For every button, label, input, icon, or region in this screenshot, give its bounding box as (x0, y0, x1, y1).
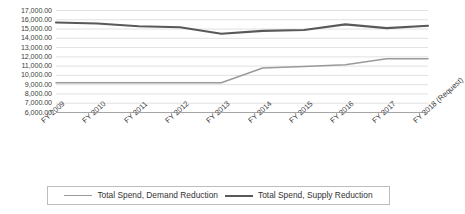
legend-item-supply-reduction: Total Spend, Supply Reduction (225, 191, 373, 200)
x-axis-tick-label: FY 2010 (81, 99, 108, 124)
x-axis-tick-label: FY 2014 (247, 99, 274, 124)
x-axis-tick-label: FY 2013 (205, 99, 232, 124)
x-axis-tick-label: FY 2017 (371, 99, 398, 124)
x-axis-tick-label: FY 2015 (288, 99, 315, 124)
legend-line-icon-demand (64, 195, 92, 196)
legend-line-icon-supply (225, 195, 253, 197)
legend-item-demand-reduction: Total Spend, Demand Reduction (64, 191, 218, 200)
legend-label-demand: Total Spend, Demand Reduction (97, 191, 218, 200)
x-axis: FY 2009FY 2010FY 2011FY 2012FY 2013FY 20… (0, 0, 434, 170)
x-axis-tick-label: FY 2011 (123, 100, 149, 125)
x-axis-tick-label: FY 2009 (40, 99, 67, 124)
legend-label-supply: Total Spend, Supply Reduction (258, 191, 373, 200)
x-axis-tick-label: FY 2016 (329, 99, 356, 124)
x-axis-tick-label: FY 2012 (164, 99, 191, 124)
x-axis-tick-label: FY 2018 (Request) (412, 76, 465, 125)
chart-legend: Total Spend, Demand Reduction Total Spen… (47, 186, 390, 205)
